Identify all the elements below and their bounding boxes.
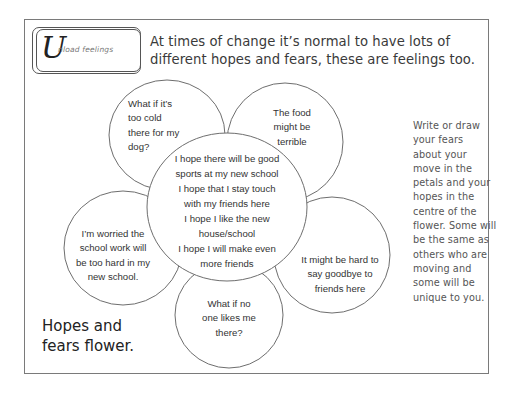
instruction-line: unique to you. bbox=[413, 291, 508, 305]
petal-text-right: It might be hard to say goodbye to frien… bbox=[290, 253, 390, 296]
instruction-line: some will be bbox=[413, 276, 508, 290]
petal-line: What if no bbox=[189, 297, 269, 311]
hope-line: sports at my new school bbox=[160, 166, 294, 181]
petal-text-left: I’m worried the school work will be too … bbox=[64, 227, 162, 284]
instruction-line: move in the bbox=[413, 162, 508, 176]
petal-line: It might be hard to bbox=[290, 253, 390, 267]
hope-line: house/school bbox=[160, 226, 294, 241]
instructions-text: Write or draw your fears about your move… bbox=[413, 119, 508, 305]
instruction-line: petals and your bbox=[413, 176, 508, 190]
title-line-2: fears flower. bbox=[42, 336, 134, 356]
hope-line: I hope I like the new bbox=[160, 211, 294, 226]
petal-line: say goodbye to bbox=[290, 267, 390, 281]
instruction-line: flower. Some will bbox=[413, 219, 508, 233]
petal-line: The food bbox=[252, 106, 332, 120]
petal-line: terrible bbox=[252, 135, 332, 149]
instruction-line: hopes in the bbox=[413, 190, 508, 204]
petal-line: What if it’s bbox=[128, 97, 218, 111]
instruction-line: your fears bbox=[413, 133, 508, 147]
petal-line: there for my bbox=[128, 126, 218, 140]
petal-line: school work will bbox=[64, 241, 162, 255]
instruction-line: about your bbox=[413, 148, 508, 162]
petal-text-bottom: What if no one likes me there? bbox=[189, 297, 269, 340]
instruction-line: be the same as bbox=[413, 233, 508, 247]
petal-line: new school. bbox=[64, 270, 162, 284]
petal-text-top-right: The food might be terrible bbox=[252, 106, 332, 149]
petal-line: be too hard in my bbox=[64, 256, 162, 270]
petal-line: might be bbox=[252, 120, 332, 134]
petal-line: I’m worried the bbox=[64, 227, 162, 241]
title-line-1: Hopes and bbox=[42, 316, 134, 336]
hope-line: with my friends here bbox=[160, 196, 294, 211]
petal-line: friends here bbox=[290, 282, 390, 296]
centre-hopes: I hope there will be good sports at my n… bbox=[160, 151, 294, 271]
instruction-line: centre of the bbox=[413, 205, 508, 219]
instruction-line: moving and bbox=[413, 262, 508, 276]
instruction-line: Write or draw bbox=[413, 119, 508, 133]
hope-line: I hope I will make even bbox=[160, 241, 294, 256]
worksheet-title: Hopes and fears flower. bbox=[42, 316, 134, 356]
petal-text-top-left: What if it’s too cold there for my dog? bbox=[128, 97, 218, 154]
petal-line: there? bbox=[189, 326, 269, 340]
instruction-line: others who are bbox=[413, 248, 508, 262]
hope-line: I hope that I stay touch bbox=[160, 181, 294, 196]
hope-line: I hope there will be good bbox=[160, 151, 294, 166]
petal-line: too cold bbox=[128, 111, 218, 125]
petal-line: one likes me bbox=[189, 311, 269, 325]
hope-line: more friends bbox=[160, 256, 294, 271]
